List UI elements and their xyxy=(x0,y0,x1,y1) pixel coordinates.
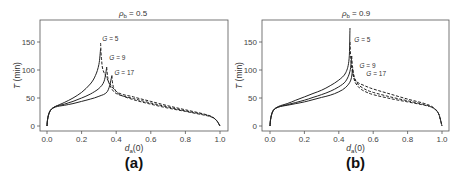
x-tick-label: 0.0 xyxy=(264,135,276,144)
series-annotation: G = 9 xyxy=(109,54,125,61)
x-tick-label: 0.2 xyxy=(76,135,88,144)
series-annotation: G = 5 xyxy=(354,36,370,43)
series-annotation: G = 17 xyxy=(366,70,386,77)
y-tick-label: 100 xyxy=(244,66,258,75)
x-tick-label: 0.2 xyxy=(299,135,311,144)
x-axis-label: da(0) xyxy=(125,143,144,154)
y-axis-label: T (min) xyxy=(12,62,22,89)
series-line xyxy=(47,76,112,126)
x-tick-label: 0.4 xyxy=(333,135,345,144)
x-tick-label: 0.0 xyxy=(41,135,53,144)
y-tick-label: 150 xyxy=(22,38,36,47)
series-line xyxy=(112,76,220,126)
y-tick-label: 150 xyxy=(244,38,258,47)
x-tick-label: 0.6 xyxy=(368,135,380,144)
x-tick-label: 1.0 xyxy=(214,135,226,144)
x-tick-label: 1.0 xyxy=(436,135,448,144)
y-tick-label: 100 xyxy=(22,66,36,75)
y-tick-label: 50 xyxy=(26,94,35,103)
x-axis-label: da(0) xyxy=(346,143,365,154)
panel-a: ρb = 0.50.00.20.40.60.81.0050100150da(0)… xyxy=(12,9,228,171)
y-tick-label: 50 xyxy=(248,94,257,103)
x-tick-label: 0.6 xyxy=(145,135,157,144)
x-tick-label: 0.8 xyxy=(180,135,192,144)
series-line xyxy=(353,69,442,126)
panel-label: (a) xyxy=(125,154,143,171)
y-tick-label: 0 xyxy=(31,122,36,131)
series-annotation: G = 17 xyxy=(114,69,134,76)
series-annotation: G = 5 xyxy=(102,35,118,42)
x-tick-label: 0.4 xyxy=(111,135,123,144)
series-line xyxy=(270,69,353,126)
series-line xyxy=(47,49,101,126)
figure: ρb = 0.50.00.20.40.60.81.0050100150da(0)… xyxy=(0,0,464,176)
series-line xyxy=(350,42,442,126)
panel-b: ρb = 0.90.00.20.40.60.81.0050100150da(0)… xyxy=(234,9,449,171)
chart-title: ρb = 0.9 xyxy=(341,9,371,19)
y-tick-label: 0 xyxy=(253,122,258,131)
x-tick-label: 0.8 xyxy=(402,135,414,144)
series-line xyxy=(270,28,350,126)
chart-title: ρb = 0.5 xyxy=(118,9,148,19)
series-annotation: G = 9 xyxy=(359,62,375,69)
y-axis-label: T (min) xyxy=(234,62,244,89)
panel-label: (b) xyxy=(346,154,365,171)
